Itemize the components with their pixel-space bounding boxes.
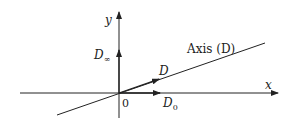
vector-d <box>119 79 159 93</box>
x-axis-label: x <box>265 78 272 92</box>
y-axis-label: y <box>104 13 112 27</box>
diagram-canvas: y x 0 Axis (D) D D0 D∞ <box>0 0 292 120</box>
vector-d-label: D <box>158 64 169 78</box>
vector-d0-label: D0 <box>162 96 178 112</box>
vector-dinf-label: D∞ <box>93 48 110 64</box>
axis-d-label: Axis (D) <box>186 42 235 56</box>
origin-label: 0 <box>122 97 129 110</box>
